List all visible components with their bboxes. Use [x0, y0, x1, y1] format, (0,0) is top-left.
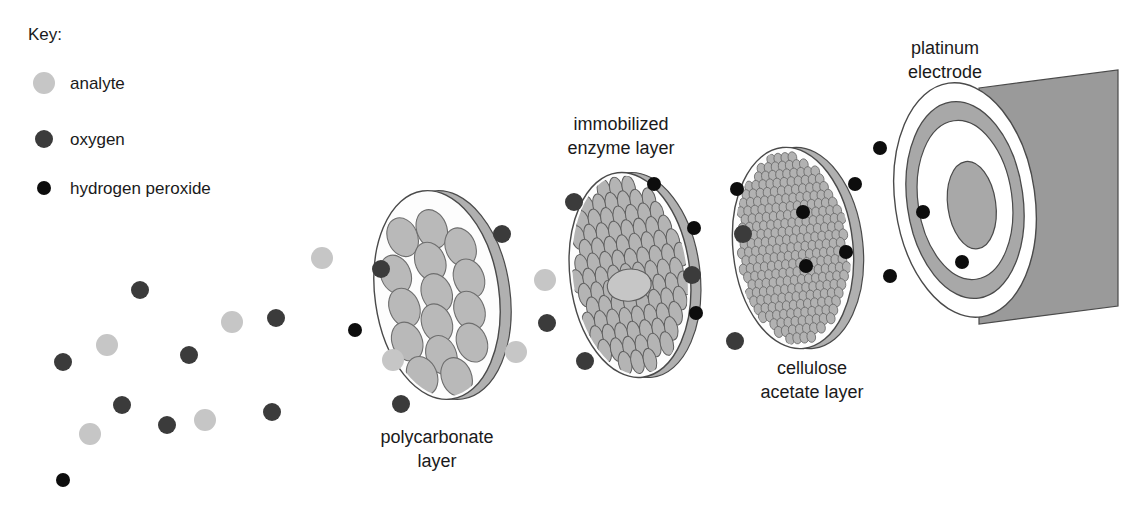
particle-oxygen [54, 353, 72, 371]
platinum-label-line1: platinum [911, 38, 979, 58]
particle-peroxide [56, 473, 70, 487]
polycarbonate-label-line2: layer [417, 451, 456, 471]
biosensor-layer-diagram: Key: analyteoxygenhydrogen peroxide poly… [0, 0, 1121, 509]
particle-analyte [311, 247, 333, 269]
polycarbonate-layer [361, 182, 524, 409]
key-title: Key: [28, 25, 62, 44]
key-legend: Key: analyteoxygenhydrogen peroxide [28, 25, 211, 198]
cellulose-label-line2: acetate layer [760, 382, 863, 402]
diagram-canvas: Key: analyteoxygenhydrogen peroxide poly… [0, 0, 1121, 509]
particle-oxygen [113, 396, 131, 414]
particle-oxygen [683, 266, 701, 284]
particle-peroxide [839, 245, 853, 259]
particle-peroxide [689, 306, 703, 320]
particle-peroxide [796, 205, 810, 219]
particle-peroxide [687, 221, 701, 235]
particle-oxygen [565, 193, 583, 211]
particle-oxygen [538, 314, 556, 332]
particle-oxygen [131, 281, 149, 299]
particle-peroxide [647, 177, 661, 191]
particle-oxygen [263, 403, 281, 421]
particles-free-left [54, 247, 362, 487]
particle-peroxide [873, 141, 887, 155]
particle-oxygen [734, 225, 752, 243]
particle-peroxide [848, 177, 862, 191]
particle-oxygen [392, 395, 410, 413]
particle-oxygen [576, 352, 594, 370]
particle-analyte [382, 349, 404, 371]
polycarbonate-label-line1: polycarbonate [380, 427, 493, 447]
key-swatch-analyte [33, 72, 55, 94]
particle-peroxide [730, 182, 744, 196]
particle-analyte [96, 334, 118, 356]
particle-peroxide [348, 323, 362, 337]
key-swatch-oxygen [35, 130, 53, 148]
particle-analyte [194, 409, 216, 431]
particle-analyte [79, 423, 101, 445]
cellulose-label-line1: cellulose [777, 358, 847, 378]
key-label-analyte: analyte [70, 74, 125, 93]
enzyme-label-line1: immobilized [573, 114, 668, 134]
platinum-electrode [879, 70, 1118, 327]
particle-peroxide [916, 205, 930, 219]
particle-oxygen [372, 260, 390, 278]
particle-oxygen [267, 309, 285, 327]
particle-analyte [221, 311, 243, 333]
particle-oxygen [726, 332, 744, 350]
enzyme-label-line2: enzyme layer [567, 138, 674, 158]
particle-oxygen [180, 346, 198, 364]
key-swatch-hydrogen [37, 181, 51, 195]
particle-analyte [505, 341, 527, 363]
platinum-label-line2: electrode [908, 62, 982, 82]
key-label-oxygen: oxygen [70, 130, 125, 149]
particle-oxygen [493, 225, 511, 243]
particle-analyte [534, 269, 556, 291]
particle-peroxide [883, 269, 897, 283]
particle-peroxide [799, 259, 813, 273]
key-label-hydrogen: hydrogen peroxide [70, 179, 211, 198]
particle-peroxide [955, 255, 969, 269]
particle-oxygen [158, 416, 176, 434]
